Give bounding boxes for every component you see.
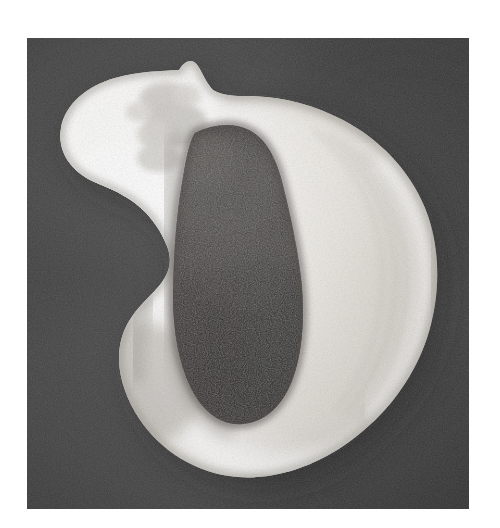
shell-photograph xyxy=(27,38,469,509)
figure-root: Black and white photograph of a globose … xyxy=(0,0,500,528)
photograph-plate xyxy=(27,38,469,509)
halftone-grain-overlay xyxy=(27,38,469,509)
